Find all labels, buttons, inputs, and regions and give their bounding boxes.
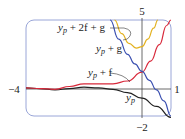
label-yp-f: yp + f: [87, 66, 113, 80]
tick-right: 1: [174, 83, 180, 95]
label-yp-2f-g: yp + 2f + g: [57, 21, 105, 35]
tick-left: −4: [8, 83, 20, 95]
label-yp-g: yp + g: [95, 42, 123, 56]
chart: 5 −2 −4 1 yp + 2f + g yp + g yp + f yp: [0, 0, 185, 139]
curve-y-p: [26, 87, 171, 117]
tick-top: 5: [139, 5, 145, 17]
pointer-yp2fg: [110, 28, 131, 40]
label-yp: yp: [125, 91, 135, 105]
curve-y-p-g: [110, 20, 171, 116]
tick-bottom: −2: [136, 121, 148, 133]
